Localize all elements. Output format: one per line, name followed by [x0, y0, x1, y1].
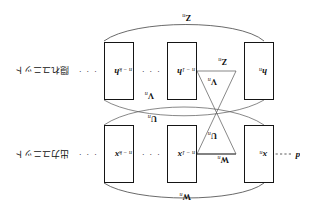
rotated-figure-group: xn n − 1x n − kx · · · · · · d hn n − 1h… [0, 0, 309, 213]
u-arc-index: n [148, 114, 151, 120]
output-row-ellipsis-tail: · · · [78, 150, 98, 160]
output-row-ellipsis-mid: · · · [141, 150, 161, 160]
z-bottom-arc-base: Z [185, 13, 191, 23]
u-left-base: U [211, 131, 217, 141]
weight-label-z-bottom-arc: Zn [182, 13, 191, 23]
unit-base-x-n-1: x [177, 150, 182, 160]
u-left-index: n [208, 131, 211, 137]
weight-label-w-inline: Wn [218, 155, 230, 165]
weight-label-z-inline: Zn [218, 57, 227, 67]
unit-base-x-n-k: x [115, 150, 120, 160]
u-arc-base: U [151, 114, 157, 124]
w-inline-index: n [218, 155, 221, 161]
unit-index-x-n: n [260, 150, 263, 156]
z-bottom-arc-index: n [182, 13, 185, 19]
unit-index-h-n-1: n − 1 [182, 67, 195, 73]
lead-in-label-d: d [296, 151, 301, 161]
v-arc [104, 100, 264, 116]
w-inline-base: W [221, 155, 230, 165]
weight-label-v-arc: Vn [145, 91, 154, 101]
unit-base-h-n-k: h [114, 67, 119, 77]
z-inline-base: Z [221, 57, 227, 67]
unit-base-x-n: x [263, 150, 268, 160]
v-inline-index: n [208, 77, 211, 83]
z-bottom-arc [104, 25, 264, 42]
unit-label-x-n-k: n − kx [115, 150, 132, 160]
w-top-arc-index: n [180, 192, 183, 198]
row-caption-hidden-units: 隠れユニット [15, 64, 69, 77]
weight-label-u-left: Un [208, 131, 217, 141]
unit-label-h-n-k: n − kh [114, 67, 132, 77]
unit-index-h-n-k: n − k [119, 67, 132, 73]
hidden-row-ellipsis-mid: · · · [141, 67, 161, 77]
unit-index-x-n-1: n − 1 [182, 150, 195, 156]
unit-label-x-n: xn [260, 150, 268, 160]
unit-label-h-n: hn [259, 67, 267, 77]
figure-canvas: xn n − 1x n − kx · · · · · · d hn n − 1h… [0, 0, 309, 213]
weight-label-v-inline: Vn [208, 77, 217, 87]
unit-label-x-n-1: n − 1x [177, 150, 195, 160]
unit-base-h-n-1: h [177, 67, 182, 77]
weight-label-w-top-arc: Wn [180, 192, 192, 202]
unit-label-h-n-1: n − 1h [177, 67, 195, 77]
row-caption-output-units: 出力ユニット [15, 148, 69, 161]
unit-index-h-n: n [259, 67, 262, 73]
z-inline-index: n [218, 57, 221, 63]
w-top-arc-base: W [183, 192, 192, 202]
v-arc-base: V [148, 91, 154, 101]
v-arc-index: n [145, 91, 148, 97]
weight-label-u-arc: Un [148, 114, 157, 124]
hidden-row-ellipsis-tail: · · · [78, 67, 98, 77]
unit-base-h-n: h [262, 67, 267, 77]
unit-index-x-n-k: n − k [119, 150, 132, 156]
v-inline-base: V [211, 77, 217, 87]
